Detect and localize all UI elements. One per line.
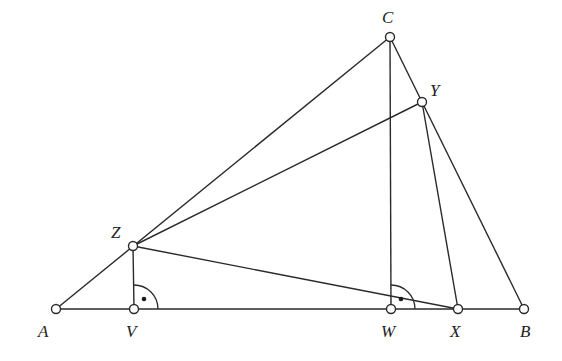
segment-CB (390, 37, 524, 309)
segment-ZY (133, 102, 422, 246)
segment-ZX (133, 246, 458, 309)
label-V: V (126, 322, 139, 341)
point-B (520, 305, 529, 314)
point-C (386, 33, 395, 42)
label-X: X (449, 322, 461, 341)
right-angle-dot (142, 297, 147, 302)
point-Y (418, 98, 427, 107)
label-Z: Z (111, 223, 121, 242)
label-A: A (37, 322, 49, 341)
geometry-diagram: ABCXYZVW (0, 0, 562, 361)
segment-CW (390, 37, 391, 309)
point-A (52, 305, 61, 314)
label-W: W (381, 322, 397, 341)
point-Z (129, 242, 138, 251)
segment-AC (56, 37, 390, 309)
right-angle-dot (399, 297, 404, 302)
point-W (387, 305, 396, 314)
point-V (130, 305, 139, 314)
point-X (454, 305, 463, 314)
segment-YX (422, 102, 458, 309)
label-C: C (382, 8, 394, 27)
segment-ZV (133, 246, 134, 309)
label-Y: Y (430, 81, 441, 100)
label-B: B (520, 322, 531, 341)
